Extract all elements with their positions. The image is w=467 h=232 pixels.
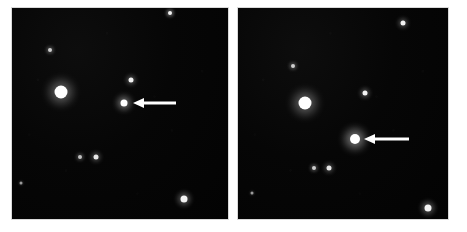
field-star: [327, 166, 332, 171]
field-star: [94, 155, 99, 160]
field-star: [291, 64, 295, 68]
arrowed-object-bright: [350, 134, 360, 144]
field-star: [48, 48, 52, 52]
figure-canvas: [0, 0, 467, 232]
field-star: [55, 86, 68, 99]
film-grain-texture: [12, 8, 228, 219]
pointer-arrow-right-panel: [364, 134, 409, 144]
field-star: [312, 166, 316, 170]
field-star: [425, 205, 432, 212]
arrow-shaft: [373, 138, 409, 141]
field-star: [401, 21, 406, 26]
right-star-field-plate: [238, 8, 448, 219]
field-star: [299, 97, 312, 110]
field-star: [20, 182, 23, 185]
field-star: [181, 196, 188, 203]
panel-gutter: [228, 0, 238, 232]
field-star: [168, 11, 172, 15]
field-star: [363, 91, 368, 96]
film-grain-texture: [238, 8, 448, 219]
field-star: [251, 192, 254, 195]
arrowed-object-faint: [121, 100, 128, 107]
field-star: [129, 78, 134, 83]
field-star: [78, 155, 82, 159]
arrow-shaft: [142, 102, 176, 105]
left-star-field-plate: [12, 8, 228, 219]
pointer-arrow-left-panel: [133, 98, 176, 108]
